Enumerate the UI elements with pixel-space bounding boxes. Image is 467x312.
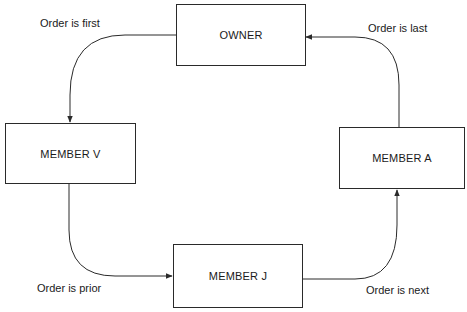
node-owner: OWNER xyxy=(176,4,306,66)
node-member-a: MEMBER A xyxy=(339,127,465,189)
edge-member-v-to-member-j xyxy=(69,184,172,276)
edge-label-order-last: Order is last xyxy=(368,22,427,34)
edge-label-order-next: Order is next xyxy=(366,284,429,296)
edge-member-a-to-owner xyxy=(306,37,399,127)
node-member-v: MEMBER V xyxy=(5,123,136,184)
edge-owner-to-member-v xyxy=(70,35,176,122)
edge-label-order-first: Order is first xyxy=(40,17,100,29)
node-member-j-label: MEMBER J xyxy=(209,270,267,282)
node-member-a-label: MEMBER A xyxy=(372,152,432,164)
node-member-v-label: MEMBER V xyxy=(40,148,100,160)
edge-label-order-prior: Order is prior xyxy=(37,282,101,294)
edge-member-j-to-member-a xyxy=(303,190,397,279)
node-owner-label: OWNER xyxy=(219,29,262,41)
node-member-j: MEMBER J xyxy=(173,244,303,308)
